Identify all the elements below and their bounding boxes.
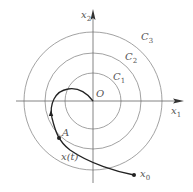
trajectory-label: x(t) (61, 152, 78, 162)
point-x0-dot (132, 173, 136, 177)
x2-axis-label: x2 (81, 10, 91, 23)
point-a-dot (57, 136, 61, 140)
circle-c2-label: C2 (125, 52, 137, 65)
x1-axis-label: x1 (171, 106, 181, 119)
circle-c1-label: C1 (113, 72, 125, 85)
point-a-label: A (62, 128, 69, 138)
origin-label: O (96, 89, 104, 99)
trajectory-arrow-icon (49, 110, 53, 116)
x0-label: x0 (140, 169, 150, 182)
circle-c3-label: C3 (141, 32, 153, 45)
